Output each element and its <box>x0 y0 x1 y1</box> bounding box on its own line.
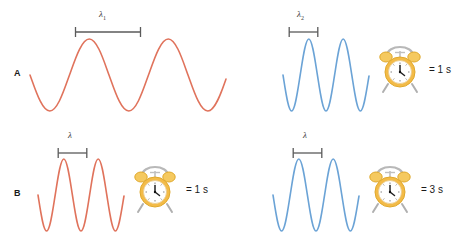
lambda-subscript-a-right: 2 <box>301 15 304 21</box>
wave-b-left <box>36 156 126 236</box>
alarm-clock-svg-b-left <box>133 164 177 214</box>
wavelength-label-b-right: λ <box>303 131 307 142</box>
alarm-clock-svg-b-right <box>368 164 412 214</box>
wavelength-label-b-left: λ <box>68 131 72 142</box>
wavelength-label-a-right: λ2 <box>297 10 304 21</box>
wave-a-right <box>281 36 371 116</box>
lambda-glyph-b-right: λ <box>303 130 307 140</box>
alarm-clock-icon-a-right <box>378 44 422 98</box>
alarm-clock-icon-b-left <box>133 164 177 218</box>
row-label-a: A <box>14 69 21 78</box>
time-label-b-left: = 1 s <box>186 185 208 195</box>
wave-a-left <box>28 36 228 116</box>
figure-canvas: A λ1 λ2 <box>0 0 470 240</box>
alarm-clock-svg-a-right <box>378 44 422 94</box>
lambda-glyph-b-left: λ <box>68 130 72 140</box>
alarm-clock-icon-b-right <box>368 164 412 218</box>
wave-b-right <box>271 156 361 236</box>
lambda-subscript-a-left: 1 <box>103 15 106 21</box>
wavelength-label-a-left: λ1 <box>99 10 106 21</box>
time-label-a-right: = 1 s <box>429 65 451 75</box>
row-label-b: B <box>14 189 21 198</box>
time-label-b-right: = 3 s <box>421 185 443 195</box>
